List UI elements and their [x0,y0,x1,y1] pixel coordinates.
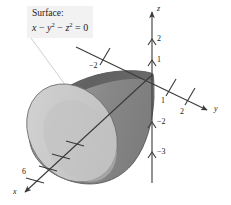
figure-3d-paraboloid: Surface: x − y2 − z2 = 0 z y x 2 1 −2 −3… [0,0,231,205]
caption-title: Surface: [32,8,88,20]
eq-equals: = [75,22,81,33]
y-tick-label-minus2: −2 [89,61,98,70]
x-tick-label-6: 6 [22,167,26,176]
z-tick-label-2: 2 [157,34,161,43]
eq-exp-z: 2 [69,21,72,28]
eq-minus-1: − [39,22,45,33]
x-axis-label: x [13,187,17,196]
z-tick-label-1: 1 [157,55,161,64]
caption-leader-line [31,38,66,86]
y-axis-label: y [214,104,218,113]
eq-minus-2: − [57,22,63,33]
y-tick-label-1: 1 [161,96,165,105]
eq-zero: 0 [83,22,88,33]
y-tick-label-2: 2 [180,107,184,116]
z-tick-label-minus2: −2 [157,117,166,126]
y-tick-2 [185,88,195,105]
z-tick-label-minus3: −3 [157,147,166,156]
caption-equation: x − y2 − z2 = 0 [32,21,88,35]
surface-caption-box: Surface: x − y2 − z2 = 0 [27,6,93,38]
eq-exp-y: 2 [52,21,55,28]
y-tick-1 [166,79,176,96]
z-axis-label: z [157,4,160,13]
